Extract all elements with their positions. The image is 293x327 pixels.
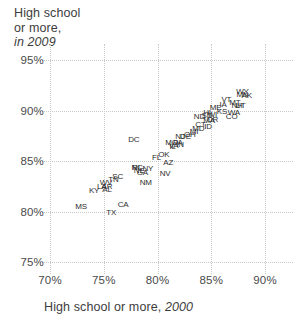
- data-point-label: NV: [160, 170, 171, 178]
- y-axis-tick-label: 85%: [20, 155, 44, 167]
- y-axis-tick-label: 75%: [20, 256, 44, 268]
- x-axis-title-year: 2000: [165, 300, 193, 314]
- x-axis-title-text: High school or more,: [44, 300, 165, 314]
- data-point-label: CA: [118, 201, 129, 209]
- data-point-label: DC: [128, 136, 139, 144]
- data-point-label: TX: [106, 209, 116, 217]
- gridline-horizontal: [38, 212, 293, 213]
- data-point-label: NH: [231, 102, 242, 110]
- scatter-plot: High schoolor more,in 2009 75%80%85%90%9…: [0, 0, 293, 327]
- gridline-vertical: [211, 44, 212, 274]
- x-axis-tick-label: 80%: [146, 274, 170, 286]
- data-point-label: AZ: [163, 159, 173, 167]
- data-point-label: ID: [204, 123, 212, 131]
- x-axis-title: High school or more, 2000: [44, 300, 193, 314]
- y-axis-tick-label: 80%: [20, 206, 44, 218]
- x-axis-tick-label: 70%: [38, 274, 62, 286]
- gridline-horizontal: [38, 60, 293, 61]
- x-axis-tick-label: 75%: [92, 274, 116, 286]
- data-point-label: MS: [75, 203, 87, 211]
- data-point-label: RI: [132, 164, 140, 172]
- data-point-label: MI: [190, 128, 199, 136]
- x-axis-tick-label: 90%: [253, 274, 277, 286]
- gridline-horizontal: [38, 111, 293, 112]
- data-point-label: NY: [142, 165, 153, 173]
- plot-area: 75%80%85%90%95%70%75%80%85%90%MSTXCAKYAL…: [50, 60, 265, 262]
- y-axis-tick-label: 90%: [20, 105, 44, 117]
- y-axis-title-line: or more,: [14, 21, 61, 35]
- x-axis-tick-label: 85%: [199, 274, 223, 286]
- gridline-horizontal: [38, 262, 293, 263]
- gridline-vertical: [50, 44, 51, 274]
- data-point-label: AR: [102, 183, 113, 191]
- y-axis-title-line: High school: [14, 6, 80, 20]
- gridline-vertical: [265, 44, 266, 274]
- y-axis-title: High schoolor more,in 2009: [14, 6, 80, 50]
- data-point-label: WY: [236, 88, 249, 96]
- data-point-label: CO: [226, 113, 238, 121]
- data-point-label: WI: [208, 111, 217, 119]
- y-axis-tick-label: 95%: [20, 54, 44, 66]
- data-point-label: NM: [140, 179, 152, 187]
- gridline-vertical: [104, 44, 105, 274]
- data-point-label: NJ: [175, 133, 184, 141]
- data-point-label: TN: [108, 176, 118, 184]
